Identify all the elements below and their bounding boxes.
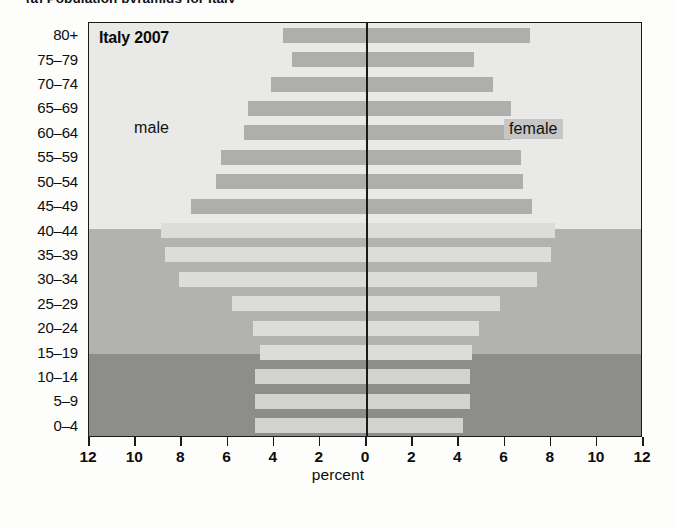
female-bar (366, 150, 521, 165)
female-side-label: female (504, 119, 563, 139)
male-bar (292, 52, 366, 67)
x-axis-tick-label: 6 (484, 448, 524, 466)
female-bar (366, 125, 511, 140)
x-axis: 12108642024681012 (88, 437, 642, 438)
x-axis-tick-label: 0 (345, 448, 385, 466)
x-axis-tick-label: 4 (253, 448, 293, 466)
x-axis-tick-label: 10 (576, 448, 616, 466)
x-axis-tick-label: 12 (68, 448, 108, 466)
bar-row (89, 174, 641, 189)
female-bar (366, 52, 474, 67)
bar-row (89, 272, 641, 287)
x-axis-tick (134, 437, 136, 446)
male-bar (165, 247, 366, 262)
male-bar (283, 28, 366, 43)
male-side-label: male (134, 119, 169, 137)
female-bar (366, 174, 523, 189)
y-axis-age-labels: 80+75–7970–7465–6960–6455–5950–5445–4940… (0, 22, 82, 437)
y-axis-tick-label: 45–49 (0, 198, 78, 213)
plot-area: Italy 2007 male female (88, 22, 642, 437)
bar-row (89, 77, 641, 92)
x-axis-tick (457, 437, 459, 446)
x-axis-tick (180, 437, 182, 446)
bar-row (89, 394, 641, 409)
y-axis-tick-label: 35–39 (0, 247, 78, 262)
female-bar (366, 247, 551, 262)
y-axis-tick-label: 70–74 (0, 76, 78, 91)
bar-row (89, 52, 641, 67)
bar-row (89, 223, 641, 238)
y-axis-tick-label: 40–44 (0, 223, 78, 238)
male-bar (248, 101, 366, 116)
bar-row (89, 296, 641, 311)
x-axis-tick-label: 2 (299, 448, 339, 466)
x-axis-tick (227, 437, 229, 446)
bar-row (89, 28, 641, 43)
female-bar (366, 28, 530, 43)
x-axis-tick (550, 437, 552, 446)
bar-row (89, 369, 641, 384)
female-bar (366, 296, 500, 311)
x-axis-tick-label: 2 (391, 448, 431, 466)
x-axis-tick-label: 8 (530, 448, 570, 466)
chart-title: Italy 2007 (97, 29, 171, 47)
female-bar (366, 418, 463, 433)
female-bar (366, 101, 511, 116)
y-axis-tick-label: 0–4 (0, 418, 78, 433)
male-bar (255, 394, 366, 409)
x-axis-tick (88, 437, 90, 446)
male-bar (216, 174, 366, 189)
y-axis-tick-label: 65–69 (0, 100, 78, 115)
x-axis-tick (596, 437, 598, 446)
female-bar (366, 77, 493, 92)
y-axis-tick-label: 55–59 (0, 149, 78, 164)
male-bar (232, 296, 366, 311)
x-axis-tick (365, 437, 367, 446)
x-axis-title: percent (0, 466, 676, 484)
male-bar (179, 272, 366, 287)
x-axis-tick (642, 437, 644, 446)
x-axis-tick-label: 12 (622, 448, 662, 466)
female-bar (366, 369, 470, 384)
male-bar (271, 77, 366, 92)
x-axis-tick (273, 437, 275, 446)
bar-row (89, 150, 641, 165)
y-axis-tick-label: 20–24 (0, 320, 78, 335)
male-bar (244, 125, 366, 140)
male-bar (255, 418, 366, 433)
y-axis-tick-label: 25–29 (0, 296, 78, 311)
male-bar (260, 345, 366, 360)
male-bar (253, 321, 366, 336)
bar-row (89, 418, 641, 433)
y-axis-tick-label: 5–9 (0, 393, 78, 408)
male-bar (221, 150, 366, 165)
female-bar (366, 199, 532, 214)
bar-row (89, 345, 641, 360)
x-axis-tick (411, 437, 413, 446)
x-axis-tick-label: 6 (207, 448, 247, 466)
male-bar (191, 199, 366, 214)
male-bar (161, 223, 366, 238)
y-axis-tick-label: 15–19 (0, 345, 78, 360)
y-axis-tick-label: 60–64 (0, 125, 78, 140)
female-bar (366, 272, 537, 287)
y-axis-tick-label: 50–54 (0, 174, 78, 189)
x-axis-tick (504, 437, 506, 446)
y-axis-tick-label: 10–14 (0, 369, 78, 384)
y-axis-tick-label: 80+ (0, 27, 78, 42)
zero-axis-line (366, 23, 368, 437)
female-bar (366, 345, 472, 360)
male-bar (255, 369, 366, 384)
population-pyramid-figure: (a) Population pyramids for Italy 80+75–… (0, 0, 676, 528)
x-axis-tick-label: 8 (160, 448, 200, 466)
bar-row (89, 247, 641, 262)
bar-row (89, 321, 641, 336)
y-axis-tick-label: 75–79 (0, 52, 78, 67)
x-axis-tick-label: 10 (114, 448, 154, 466)
x-axis-tick (319, 437, 321, 446)
female-bar (366, 321, 479, 336)
y-axis-tick-label: 30–34 (0, 271, 78, 286)
female-bar (366, 394, 470, 409)
x-axis-tick-label: 4 (437, 448, 477, 466)
bar-row (89, 101, 641, 116)
